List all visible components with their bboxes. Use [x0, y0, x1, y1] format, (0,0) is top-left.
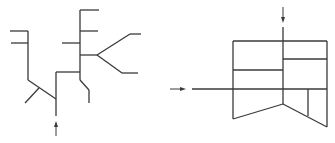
diagram-svg: [0, 0, 335, 143]
diagram-canvas: [0, 0, 335, 143]
up-arrow-icon: [54, 121, 58, 136]
right-box-figure: [192, 27, 327, 127]
left-tree-figure: [10, 10, 141, 116]
down-arrow-icon: [281, 7, 285, 23]
right-arrow-icon: [170, 87, 186, 91]
